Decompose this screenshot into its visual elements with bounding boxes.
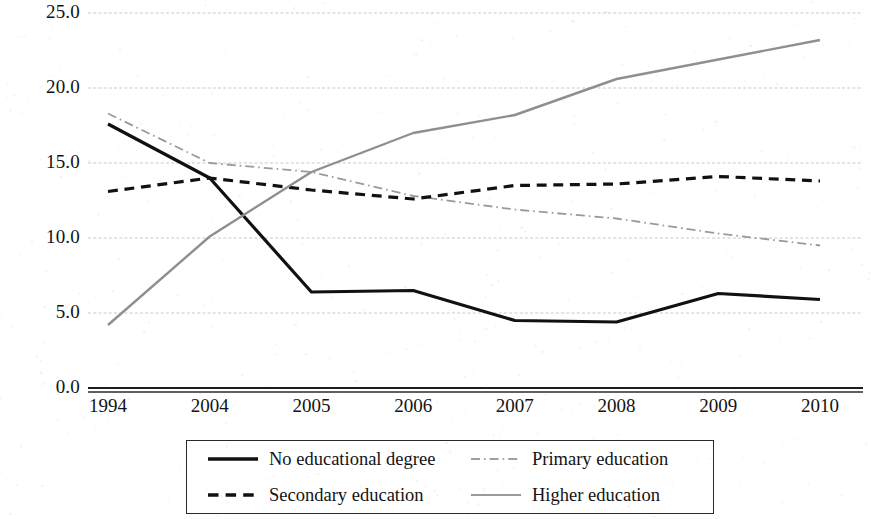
chart-legend: No educational degreePrimary educationSe…: [186, 440, 714, 514]
x-tick-label: 2005: [271, 396, 351, 416]
legend-line-swatch: [470, 488, 522, 502]
legend-item: Primary education: [450, 449, 713, 469]
x-tick-label: 2008: [577, 396, 657, 416]
legend-item: No educational degree: [187, 449, 450, 469]
legend-item: Secondary education: [187, 485, 450, 505]
legend-line-swatch: [207, 452, 259, 466]
x-tick-label: 2007: [475, 396, 555, 416]
x-tick-label: 1994: [68, 396, 148, 416]
legend-item: Higher education: [450, 485, 713, 505]
legend-grid: No educational degreePrimary educationSe…: [187, 441, 713, 513]
x-tick-label: 2004: [170, 396, 250, 416]
x-tick-label: 2010: [780, 396, 860, 416]
legend-line-swatch: [207, 488, 259, 502]
legend-label: Higher education: [532, 485, 660, 505]
x-tick-label: 2006: [373, 396, 453, 416]
legend-label: No educational degree: [269, 449, 435, 469]
legend-label: Secondary education: [269, 485, 424, 505]
legend-label: Primary education: [532, 449, 668, 469]
x-tick-label: 2009: [678, 396, 758, 416]
line-chart: 0.05.010.015.020.025.0 19942004200520062…: [0, 0, 871, 519]
legend-line-swatch: [470, 452, 522, 466]
